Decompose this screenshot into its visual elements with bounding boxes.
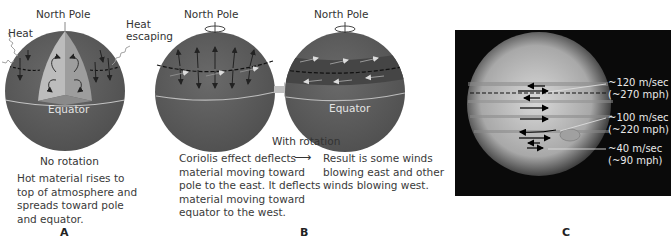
wind-label-1: ~120 m/sec (~270 mph)	[608, 77, 669, 101]
sphere-a	[2, 22, 130, 151]
subtitle-no-rotation: No rotation	[40, 155, 99, 167]
wind-label-3: ~40 m/sec (~90 mph)	[608, 143, 663, 167]
result-arrow-icon: ⟶	[294, 150, 311, 164]
sphere-b-after	[280, 22, 410, 152]
north-pole-label-b1: North Pole	[184, 8, 238, 20]
panel-letter-c: C	[562, 226, 570, 239]
jupiter-disc	[467, 32, 611, 176]
north-pole-label-a: North Pole	[36, 8, 90, 20]
equator-label-b: Equator	[329, 102, 370, 114]
heat-escaping-squiggle-icon	[112, 46, 130, 65]
wind-label-2: ~100 m/sec (~220 mph)	[608, 112, 669, 136]
panel-letter-a: A	[60, 226, 69, 239]
caption-a: Hot material rises to top of atmosphere …	[17, 172, 137, 226]
caption-b-right: Result is some winds blowing east and ot…	[323, 152, 444, 193]
equator-label-a: Equator	[48, 103, 89, 115]
panel-letter-b: B	[300, 226, 308, 239]
north-pole-label-b2: North Pole	[314, 8, 368, 20]
heat-label: Heat	[8, 27, 33, 39]
subtitle-with-rotation: With rotation	[272, 135, 340, 147]
heat-escaping-label: Heat escaping	[126, 18, 173, 42]
